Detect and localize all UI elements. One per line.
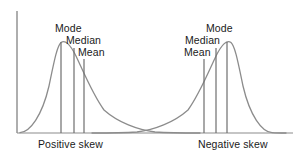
label-median-positive: Median xyxy=(66,35,101,46)
label-mean-negative: Mean xyxy=(184,47,211,58)
label-mode-positive: Mode xyxy=(55,23,82,34)
skewness-diagram: Mode Median Mean Mode Median Mean Positi… xyxy=(0,0,295,155)
label-mean-positive: Mean xyxy=(78,47,105,58)
positive-skew-curve xyxy=(20,42,200,133)
label-median-negative: Median xyxy=(185,35,220,46)
caption-positive-skew: Positive skew xyxy=(38,138,103,150)
label-mode-negative: Mode xyxy=(206,23,233,34)
caption-negative-skew: Negative skew xyxy=(198,138,268,150)
distribution-plot xyxy=(0,0,295,155)
